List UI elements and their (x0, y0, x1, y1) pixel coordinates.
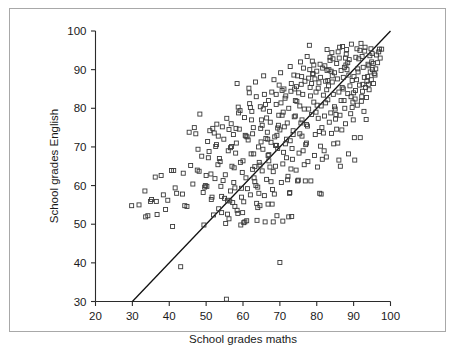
data-point (318, 144, 322, 148)
data-point (220, 125, 224, 129)
data-point (230, 145, 234, 149)
data-point (312, 63, 316, 67)
data-point (259, 118, 263, 122)
data-point (206, 140, 210, 144)
data-point (288, 65, 292, 69)
data-point (348, 84, 352, 88)
y-tick-label: 80 (74, 102, 87, 114)
data-point (224, 221, 228, 225)
data-point (362, 109, 366, 113)
data-point (263, 102, 267, 106)
data-point (265, 116, 269, 120)
data-point (256, 145, 260, 149)
data-point (314, 90, 318, 94)
data-point (277, 83, 281, 87)
data-point (171, 225, 175, 229)
data-point (233, 186, 237, 190)
data-point (335, 77, 339, 81)
y-axis-tick-labels: 30405060708090100 (67, 25, 86, 308)
data-point (308, 94, 312, 98)
data-point (324, 155, 328, 159)
data-point (289, 167, 293, 171)
data-point (304, 123, 308, 127)
data-point (294, 168, 298, 172)
data-point (329, 111, 333, 115)
data-point (327, 120, 331, 124)
y-tick-label: 50 (74, 218, 87, 230)
data-point (274, 102, 278, 106)
data-point (275, 214, 279, 218)
data-point (226, 212, 230, 216)
data-point (216, 134, 220, 138)
data-point (247, 91, 251, 95)
data-point (334, 117, 338, 121)
data-point (321, 93, 325, 97)
data-point (247, 86, 251, 90)
data-point (297, 151, 301, 155)
data-point (254, 95, 258, 99)
data-point (278, 260, 282, 264)
data-point (271, 187, 275, 191)
data-point (335, 61, 339, 65)
data-point (249, 152, 253, 156)
data-point (248, 193, 252, 197)
y-tick-label: 60 (74, 180, 87, 192)
data-point (270, 202, 274, 206)
data-point (266, 202, 270, 206)
data-point (251, 132, 255, 136)
x-tick-label: 40 (163, 310, 176, 322)
data-point (252, 152, 256, 156)
data-point (285, 121, 289, 125)
data-point (335, 127, 339, 131)
data-point (200, 154, 204, 158)
data-point (253, 180, 257, 184)
x-tick-label: 80 (310, 310, 323, 322)
y-tick-label: 90 (74, 64, 87, 76)
identity-line (132, 31, 390, 302)
x-tick-label: 90 (347, 310, 360, 322)
data-point (279, 71, 283, 75)
data-point (265, 177, 269, 181)
data-point (371, 61, 375, 65)
data-point (159, 174, 163, 178)
data-point (289, 82, 293, 86)
data-point (137, 203, 141, 207)
data-point (279, 180, 283, 184)
data-point (365, 95, 369, 99)
data-point (251, 126, 255, 130)
data-point (337, 158, 341, 162)
data-point (266, 99, 270, 103)
data-point (271, 170, 275, 174)
data-point (206, 156, 210, 160)
data-point (249, 118, 253, 122)
data-point (310, 82, 314, 86)
data-point (309, 179, 313, 183)
data-point (130, 204, 134, 208)
data-point (270, 90, 274, 94)
data-point (338, 113, 342, 117)
data-point (198, 112, 202, 116)
data-point (301, 66, 305, 70)
data-point (244, 176, 248, 180)
data-point (257, 191, 261, 195)
data-point (215, 122, 219, 126)
data-point (227, 128, 231, 132)
data-point (187, 130, 191, 134)
data-point (376, 61, 380, 65)
data-point (338, 164, 342, 168)
data-point (248, 102, 252, 106)
data-point (351, 118, 355, 122)
y-axis-title: School grades English (48, 109, 60, 223)
data-point (234, 141, 238, 145)
data-point (313, 77, 317, 81)
data-point (196, 147, 200, 151)
data-point (299, 60, 303, 64)
data-point (212, 131, 216, 135)
x-axis-tick-labels: 2030405060708090100 (89, 310, 400, 322)
data-point (273, 164, 277, 168)
data-point (269, 180, 273, 184)
data-point (346, 152, 350, 156)
data-point (287, 106, 291, 110)
x-tick-label: 20 (89, 310, 102, 322)
data-point (349, 42, 353, 46)
